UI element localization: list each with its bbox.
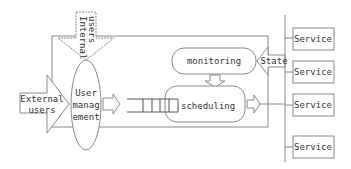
service-label-1: Service [294,34,332,44]
internal-users-label-2: users [87,16,97,43]
user-management-label-3: ement [72,112,99,122]
user-management-label-2: manag [72,100,99,110]
state-label: State [260,56,287,66]
user-management-label-1: User [75,88,97,98]
internal-users-label-1: Internal [78,16,88,59]
service-label-3: Service [294,100,332,110]
service-label-4: Service [294,142,332,152]
system-architecture-diagram: Internal users External users User manag… [0,0,351,169]
service-label-2: Service [294,67,332,77]
external-users-label-1: External [20,94,63,104]
monitoring-label: monitoring [187,56,241,66]
scheduling-label: scheduling [181,101,235,111]
external-users-label-2: users [28,105,55,115]
